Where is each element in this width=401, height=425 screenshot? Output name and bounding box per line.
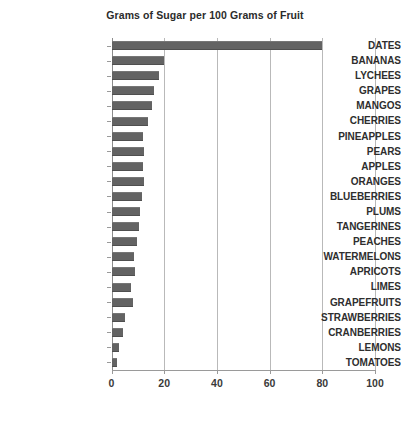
chart-row: GRAPES	[0, 83, 401, 99]
y-tick-mark	[107, 76, 111, 77]
chart-row: APRICOTS	[0, 264, 401, 280]
x-tick-label-100: 100	[355, 377, 395, 389]
y-tick-mark	[107, 287, 111, 288]
y-tick-mark	[107, 332, 111, 333]
bar-pineapples	[112, 132, 144, 141]
y-tick-mark	[107, 227, 111, 228]
chart-row: PINEAPPLES	[0, 129, 401, 145]
bar-blueberries	[112, 192, 142, 201]
chart-row: CHERRIES	[0, 113, 401, 129]
bar-tomatoes	[112, 358, 117, 367]
chart-row: LYCHEES	[0, 68, 401, 84]
y-tick-mark	[107, 302, 111, 303]
chart-row: TANGERINES	[0, 219, 401, 235]
chart-row: PLUMS	[0, 204, 401, 220]
category-label-cranberries: CRANBERRIES	[296, 325, 401, 341]
chart-row: LEMONS	[0, 340, 401, 356]
category-label-pineapples: PINEAPPLES	[296, 129, 401, 145]
chart-row: TOMATOES	[0, 355, 401, 371]
bar-strawberries	[112, 313, 125, 322]
category-label-apples: APPLES	[296, 159, 401, 175]
y-tick-mark	[107, 61, 111, 62]
chart-row: PEACHES	[0, 234, 401, 250]
x-tick-label-0: 0	[92, 377, 132, 389]
x-tick-label-40: 40	[197, 377, 237, 389]
chart-row: WATERMELONS	[0, 249, 401, 265]
y-tick-mark	[107, 272, 111, 273]
y-tick-mark	[107, 347, 111, 348]
y-tick-mark	[107, 91, 111, 92]
y-tick-mark	[107, 46, 111, 47]
bar-limes	[112, 283, 132, 292]
y-tick-mark	[107, 151, 111, 152]
category-label-mangos: MANGOS	[296, 98, 401, 114]
y-tick-mark	[107, 196, 111, 197]
bar-cranberries	[112, 328, 124, 337]
y-tick-mark	[107, 106, 111, 107]
category-label-cherries: CHERRIES	[296, 113, 401, 129]
chart-row: STRAWBERRIES	[0, 310, 401, 326]
y-tick-mark	[107, 257, 111, 258]
bar-tangerines	[112, 222, 140, 231]
chart-row: MANGOS	[0, 98, 401, 114]
bar-grapefruits	[112, 298, 133, 307]
category-label-plums: PLUMS	[296, 204, 401, 220]
bar-cherries	[112, 117, 149, 126]
sugar-bar-chart: Grams of Sugar per 100 Grams of Fruit 02…	[0, 0, 401, 425]
bar-oranges	[112, 177, 145, 186]
chart-row: PEARS	[0, 144, 401, 160]
chart-row: ORANGES	[0, 174, 401, 190]
category-label-watermelons: WATERMELONS	[296, 249, 401, 265]
chart-row: BLUEBERRIES	[0, 189, 401, 205]
x-tick-label-80: 80	[302, 377, 342, 389]
bar-apples	[112, 162, 144, 171]
y-tick-mark	[107, 362, 111, 363]
category-label-tomatoes: TOMATOES	[296, 355, 401, 371]
chart-row: BANANAS	[0, 53, 401, 69]
y-tick-mark	[107, 242, 111, 243]
category-label-limes: LIMES	[296, 279, 401, 295]
x-tick-label-20: 20	[144, 377, 184, 389]
category-label-grapefruits: GRAPEFRUITS	[296, 295, 401, 311]
y-tick-mark	[107, 136, 111, 137]
x-tick-label-60: 60	[250, 377, 290, 389]
chart-title: Grams of Sugar per 100 Grams of Fruit	[40, 9, 370, 21]
y-tick-mark	[107, 166, 111, 167]
category-label-pears: PEARS	[296, 144, 401, 160]
bar-plums	[112, 207, 141, 216]
bar-grapes	[112, 86, 154, 95]
bar-lemons	[112, 343, 120, 352]
bar-mangos	[112, 101, 153, 110]
bar-watermelons	[112, 252, 134, 261]
category-label-tangerines: TANGERINES	[296, 219, 401, 235]
y-tick-mark	[107, 121, 111, 122]
chart-row: GRAPEFRUITS	[0, 295, 401, 311]
y-tick-mark	[107, 317, 111, 318]
y-tick-mark	[107, 212, 111, 213]
bar-pears	[112, 147, 145, 156]
bar-apricots	[112, 267, 136, 276]
category-label-strawberries: STRAWBERRIES	[296, 310, 401, 326]
bar-dates	[112, 41, 323, 50]
category-label-oranges: ORANGES	[296, 174, 401, 190]
bar-peaches	[112, 237, 137, 246]
category-label-peaches: PEACHES	[296, 234, 401, 250]
chart-row: LIMES	[0, 279, 401, 295]
y-tick-mark	[107, 181, 111, 182]
category-label-apricots: APRICOTS	[296, 264, 401, 280]
category-label-lychees: LYCHEES	[296, 68, 401, 84]
chart-row: APPLES	[0, 159, 401, 175]
bar-bananas	[112, 56, 165, 65]
category-label-blueberries: BLUEBERRIES	[296, 189, 401, 205]
category-label-grapes: GRAPES	[296, 83, 401, 99]
chart-row: CRANBERRIES	[0, 325, 401, 341]
category-label-bananas: BANANAS	[296, 53, 401, 69]
bar-lychees	[112, 71, 159, 80]
category-label-lemons: LEMONS	[296, 340, 401, 356]
